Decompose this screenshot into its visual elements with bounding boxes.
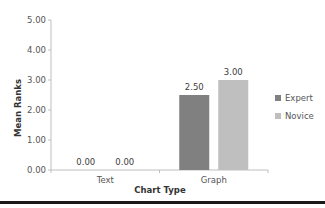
- legend-swatch-novice: [275, 113, 281, 119]
- x-axis-title: Chart Type: [134, 185, 186, 195]
- bar-novice-graph: [218, 80, 248, 170]
- legend-label-novice: Novice: [285, 111, 314, 121]
- x-axis: TextGraph: [51, 170, 268, 185]
- x-tick-label: Graph: [201, 175, 227, 185]
- data-labels: 0.000.002.503.00: [76, 67, 242, 167]
- bottom-divider: [0, 201, 325, 204]
- y-tick-label: 4.00: [27, 45, 46, 55]
- y-tick-label: 1.00: [27, 135, 46, 145]
- bar-chart: 0.001.002.003.004.005.00 TextGraph 0.000…: [0, 0, 325, 208]
- y-tick-label: 0.00: [27, 165, 46, 175]
- data-label: 0.00: [76, 157, 95, 167]
- y-tick-label: 5.00: [27, 15, 46, 25]
- y-tick-label: 2.00: [27, 105, 46, 115]
- x-tick-label: Text: [96, 175, 115, 185]
- y-axis-title: Mean Ranks: [13, 79, 23, 137]
- bars: [179, 80, 248, 170]
- y-tick-label: 3.00: [27, 75, 46, 85]
- legend: ExpertNovice: [275, 93, 314, 121]
- data-label: 3.00: [224, 67, 243, 77]
- data-label: 0.00: [115, 157, 134, 167]
- y-axis: 0.001.002.003.004.005.00: [27, 15, 51, 175]
- legend-swatch-expert: [275, 95, 281, 101]
- bar-expert-graph: [179, 95, 209, 170]
- legend-label-expert: Expert: [285, 93, 314, 103]
- data-label: 2.50: [185, 82, 204, 92]
